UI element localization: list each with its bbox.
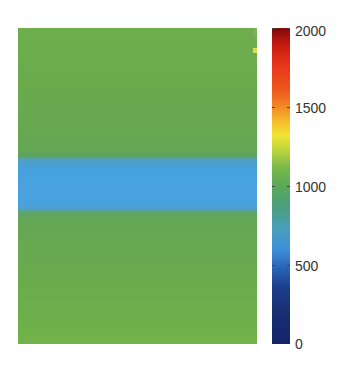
colorbar-tick-2000-left <box>272 28 275 29</box>
colorbar-tick-1000-left <box>272 186 275 187</box>
band-transition <box>18 158 257 163</box>
colorbar-tick-500-left <box>272 265 275 266</box>
colorbar-label-1500: 1500 <box>295 100 326 116</box>
heatmap-image <box>18 28 257 344</box>
colorbar-label-2000: 2000 <box>295 23 326 39</box>
colorbar-label-500: 500 <box>295 258 318 274</box>
colorbar-tick-500-right <box>287 265 290 266</box>
colorbar-tick-2000-right <box>287 28 290 29</box>
colorbar-label-0: 0 <box>295 336 303 352</box>
colorbar-tick-1500-right <box>287 107 290 108</box>
colorbar-tick-1500-left <box>272 107 275 108</box>
colorbar-label-1000: 1000 <box>295 179 326 195</box>
colorbar-tick-1000-right <box>287 186 290 187</box>
edge-artifact <box>254 28 257 38</box>
hot-spot <box>253 48 257 53</box>
